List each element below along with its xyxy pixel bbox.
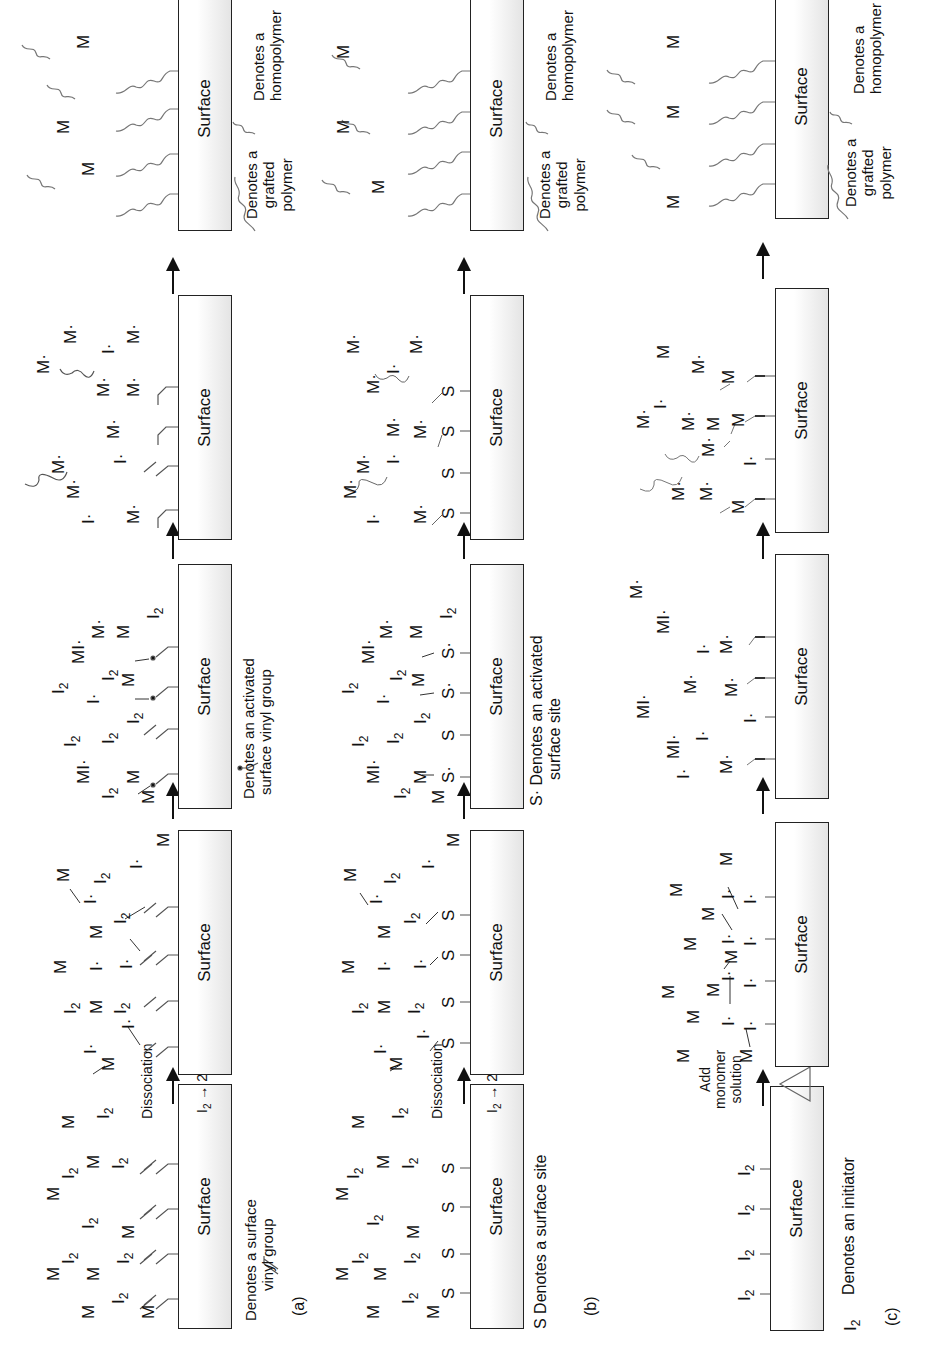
panel-a: Surface M M M M M M M M I2 I2 I2 I2 I2 I… <box>0 0 310 1359</box>
legend-homopolymer: Denotes a homopolymer <box>542 10 577 101</box>
legend-homopolymer: Denotes a homopolymer <box>250 10 285 101</box>
monomer-label: M <box>665 35 682 49</box>
panel-b: Surface S S S S M M M M M M M M I2 I2 I2… <box>320 0 620 1359</box>
legend-grafted-polymer: Denotes a grafted polymer <box>842 139 894 207</box>
monomer-label: M <box>335 120 352 134</box>
monomer-label: M <box>80 162 97 176</box>
monomer-label: M <box>335 45 352 59</box>
monomer-label: M <box>370 180 387 194</box>
grafting-mechanism-diagram: Surface M M M M M M M M I2 I2 I2 I2 I2 I… <box>0 0 928 1359</box>
legend-grafted-polymer: Denotes a grafted polymer <box>243 151 295 219</box>
monomer-label: M <box>55 120 72 134</box>
monomer-label: M <box>665 195 682 209</box>
legend-grafted-polymer: Denotes a grafted polymer <box>536 151 588 219</box>
monomer-label: M <box>75 35 92 49</box>
legend-homopolymer: Denotes a homopolymer <box>850 3 885 94</box>
panel-c: Surface I2 I2 I2 I2 I2 Denotes an initia… <box>620 0 928 1359</box>
monomer-label: M <box>665 105 682 119</box>
